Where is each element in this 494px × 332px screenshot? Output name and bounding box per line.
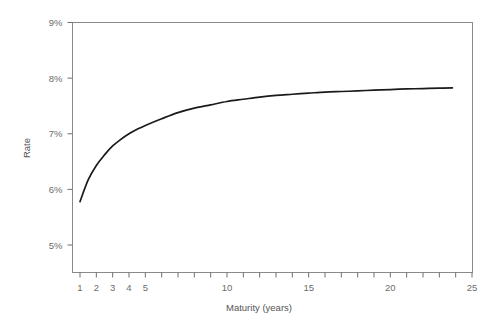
x-tick-label: 4	[126, 282, 131, 293]
x-tick-label: 25	[467, 282, 478, 293]
x-axis-title: Maturity (years)	[226, 302, 292, 313]
x-tick-label: 10	[222, 282, 233, 293]
x-tick-label: 2	[94, 282, 99, 293]
y-axis-ticks	[68, 23, 73, 246]
plot-border	[73, 23, 473, 273]
y-tick-label: 6%	[49, 184, 63, 195]
x-tick-label: 5	[143, 282, 148, 293]
x-tick-label: 1	[77, 282, 82, 293]
series-line-yield-curve	[80, 88, 452, 202]
plot-frame	[73, 23, 473, 273]
data-series	[80, 88, 452, 202]
x-tick-label: 20	[385, 282, 396, 293]
y-axis-tick-labels: 5%6%7%8%9%	[49, 17, 63, 251]
y-tick-label: 7%	[49, 128, 63, 139]
y-tick-label: 8%	[49, 73, 63, 84]
y-tick-label: 5%	[49, 240, 63, 251]
y-axis-title: Rate	[21, 138, 32, 158]
x-axis-tick-labels: 1234510152025	[77, 282, 477, 293]
chart-canvas: 5%6%7%8%9% 1234510152025 Maturity (years…	[0, 0, 494, 332]
x-axis-ticks	[80, 273, 472, 278]
x-tick-label: 3	[110, 282, 115, 293]
y-tick-label: 9%	[49, 17, 63, 28]
x-tick-label: 15	[303, 282, 314, 293]
yield-curve-chart: 5%6%7%8%9% 1234510152025 Maturity (years…	[0, 0, 494, 332]
